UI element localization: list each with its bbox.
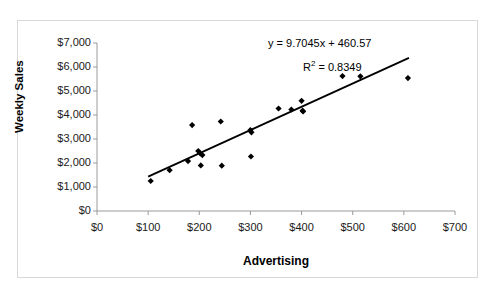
data-point-marker — [248, 153, 254, 159]
y-axis-tick-label: $7,000 — [30, 36, 91, 48]
y-axis-tick-label: $0 — [30, 204, 91, 216]
y-axis-tick-label: $1,000 — [30, 180, 91, 192]
axis-lines — [97, 43, 455, 211]
r-squared-number: = 0.8349 — [318, 61, 361, 73]
data-point-marker — [148, 178, 154, 184]
data-point-markers — [148, 73, 411, 184]
y-axis-ticks — [93, 43, 97, 211]
data-point-marker — [339, 73, 345, 79]
r-squared-label: R2 = 0.8349 — [303, 59, 362, 73]
trendline-equation-label: y = 9.7045x + 460.57 — [268, 37, 371, 49]
data-point-marker — [298, 98, 304, 104]
y-axis-tick-label: $4,000 — [30, 108, 91, 120]
data-point-marker — [300, 108, 306, 114]
x-axis-title: Advertising — [97, 254, 455, 268]
x-axis-tick-label: $700 — [425, 221, 485, 233]
y-axis-tick-label: $6,000 — [30, 60, 91, 72]
data-point-marker — [189, 122, 195, 128]
r-squared-symbol: R — [303, 61, 311, 73]
y-axis-tick-label: $5,000 — [30, 84, 91, 96]
x-axis-ticks — [97, 211, 455, 215]
data-point-marker — [275, 105, 281, 111]
y-axis-tick-label: $3,000 — [30, 132, 91, 144]
y-axis-title: Weekly Sales — [13, 63, 25, 133]
data-point-marker — [405, 75, 411, 81]
data-point-marker — [219, 163, 225, 169]
r-squared-exponent: 2 — [311, 59, 315, 68]
data-point-marker — [218, 118, 224, 124]
data-point-marker — [198, 162, 204, 168]
y-axis-tick-label: $2,000 — [30, 156, 91, 168]
